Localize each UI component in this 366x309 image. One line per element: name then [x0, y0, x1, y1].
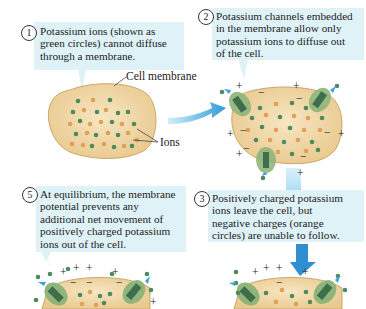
cell-step-5 — [34, 267, 154, 309]
positive-charge: + — [297, 167, 304, 179]
negative-charge: − — [116, 276, 123, 288]
positive-charge: + — [227, 128, 234, 140]
positive-charge: + — [263, 262, 270, 274]
step-3-line: Positively charged potassium — [212, 192, 360, 204]
negative-charge: − — [258, 86, 265, 98]
positive-charge: + — [293, 80, 300, 92]
negative-charge: − — [276, 276, 283, 288]
cell-step-3 — [229, 270, 347, 309]
step-5-line: positively charged potassium — [40, 225, 182, 237]
negative-charge: − — [243, 142, 250, 154]
step-3-line: ions leave the cell, but — [212, 204, 360, 216]
step-3-callout: 3 Positively charged potassium ions leav… — [208, 190, 364, 242]
step-number-2: 2 — [198, 9, 214, 25]
step-2-line: of the cell. — [216, 47, 360, 59]
step-number-5: 5 — [22, 187, 38, 203]
positive-charge: + — [338, 128, 345, 140]
step-2-line: potassium ions to diffuse out — [216, 35, 360, 47]
negative-charge: − — [240, 124, 247, 136]
callout-2-pointer — [238, 58, 248, 80]
step-number-1: 1 — [21, 25, 37, 41]
ions-label: Ions — [160, 136, 180, 148]
cell-membrane-label: Cell membrane — [126, 70, 197, 82]
positive-charge: + — [236, 148, 243, 160]
step-5-line: ions out of the cell. — [40, 238, 182, 250]
positive-charge: + — [236, 80, 243, 92]
step-5-callout: 5 At equilibrium, the membrane potential… — [36, 186, 186, 252]
step-2-line: in the membrane allow only — [216, 22, 360, 34]
negative-charge: − — [86, 276, 93, 288]
step-3-line: circles) are unable to follow. — [212, 229, 360, 241]
step-1-line: green circles) cannot diffuse — [40, 37, 180, 49]
step-2-line: Potassium channels embedded — [216, 10, 360, 22]
positive-charge: + — [73, 262, 80, 274]
positive-charge: + — [252, 266, 259, 278]
step-5-line: potential prevents any — [40, 200, 182, 212]
step-3-line: negative charges (orange — [212, 217, 360, 229]
step-5-line: At equilibrium, the membrane — [40, 188, 182, 200]
positive-charge: + — [302, 266, 309, 278]
step-2-callout: 2 Potassium channels embedded in the mem… — [212, 8, 364, 60]
positive-charge: + — [86, 262, 93, 274]
cell-step-1 — [48, 77, 158, 159]
negative-charge: − — [296, 92, 303, 104]
step-5-line: additional net movement of — [40, 213, 182, 225]
arrow-step1-to-2 — [168, 102, 226, 124]
negative-charge: − — [300, 150, 307, 162]
negative-charge: − — [324, 126, 331, 138]
step-1-line: Potassium ions (shown as — [40, 25, 180, 37]
positive-charge: + — [150, 296, 157, 308]
negative-charge: − — [70, 276, 77, 288]
positive-charge: + — [60, 266, 67, 278]
step-1-line: through a membrane. — [40, 50, 180, 62]
step-number-3: 3 — [194, 191, 210, 207]
positive-charge: + — [276, 262, 283, 274]
step-1-callout: 1 Potassium ions (shown as green circles… — [34, 22, 184, 70]
